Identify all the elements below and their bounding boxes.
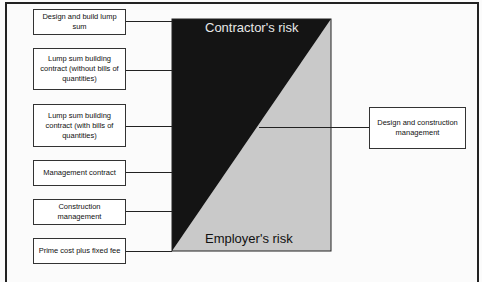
connector-line [126, 126, 172, 127]
box-label: Management contract [43, 168, 116, 178]
connector-line [126, 211, 172, 212]
employer-risk-label: Employer's risk [205, 231, 293, 246]
box-management-contract: Management contract [33, 160, 126, 186]
connector-line [126, 251, 172, 252]
box-lump-sum-with-boq: Lump sum building contract (with bills o… [33, 104, 126, 147]
connector-line [126, 21, 172, 22]
connector-line [126, 172, 172, 173]
box-label: Prime cost plus fixed fee [39, 246, 121, 256]
box-design-construction-management: Design and construction management [369, 107, 466, 149]
connector-line [259, 127, 369, 128]
connector-line [126, 70, 172, 71]
box-label: Lump sum building contract (without bill… [37, 54, 122, 84]
contractor-risk-label: Contractor's risk [205, 20, 299, 35]
box-label: Design and construction management [373, 118, 462, 138]
box-label: Design and build lump sum [37, 12, 122, 32]
box-label: Construction management [37, 202, 122, 222]
box-construction-management: Construction management [33, 199, 126, 225]
box-prime-cost-plus-fixed-fee: Prime cost plus fixed fee [33, 238, 126, 264]
box-lump-sum-without-boq: Lump sum building contract (without bill… [33, 48, 126, 90]
box-label: Lump sum building contract (with bills o… [37, 111, 122, 141]
box-design-build-lump-sum: Design and build lump sum [33, 9, 126, 35]
